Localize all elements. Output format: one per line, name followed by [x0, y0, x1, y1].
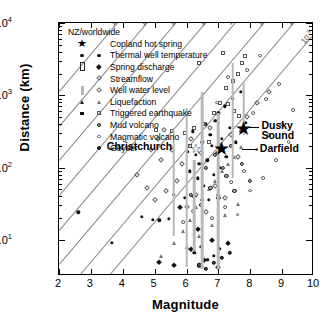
y-tick-minor [59, 99, 62, 100]
y-tick-minor [309, 61, 312, 62]
y-tick-minor [59, 184, 62, 185]
x-tick-top [123, 23, 124, 28]
legend-item: Magmatic volcano [64, 131, 244, 143]
x-tick [250, 269, 251, 274]
legend-label: Mud volcano [110, 120, 159, 130]
y-tick-minor [59, 196, 62, 197]
legend-symbol [64, 123, 110, 127]
y-tick-minor [309, 184, 312, 185]
x-tick-label: 6 [176, 277, 196, 289]
y-tick-minor [59, 74, 62, 75]
data-point [229, 180, 233, 184]
legend-item: Liquefaction [64, 96, 244, 108]
legend-symbol-worldwide [94, 88, 104, 92]
legend-label: Thermal well temperature [110, 50, 207, 60]
y-tick-minor [59, 111, 62, 112]
y-tick-major [59, 23, 65, 24]
legend-symbol-worldwide [94, 111, 104, 115]
x-tick [123, 269, 124, 274]
strain-contour-label: 10-3 [298, 29, 312, 46]
y-tick-major [306, 23, 312, 24]
y-tick-minor [309, 34, 312, 35]
star-icon: ★ [77, 38, 87, 49]
x-tick [218, 269, 219, 274]
legend-symbol [64, 76, 110, 80]
legend-symbol-worldwide [94, 146, 104, 150]
x-tick-label: 4 [112, 277, 132, 289]
legend-symbol [64, 86, 110, 95]
y-tick-minor [309, 99, 312, 100]
legend-symbol [64, 111, 110, 115]
y-tick-minor [309, 175, 312, 176]
legend-symbol-worldwide [94, 100, 104, 104]
y-tick-major [59, 168, 65, 169]
figure-distance-vs-magnitude: Distance (km) Magnitude 101102103104 234… [0, 0, 330, 321]
y-tick-minor [59, 52, 62, 53]
y-tick-minor [59, 218, 62, 219]
y-tick-minor [59, 102, 62, 103]
x-tick-label: 5 [144, 277, 164, 289]
legend-rows: ★Copland hot springThermal well temperat… [64, 38, 244, 154]
data-point [157, 259, 162, 264]
data-point [248, 189, 252, 193]
x-tick-label: 10 [303, 277, 323, 289]
data-point [159, 254, 163, 258]
data-point [212, 254, 215, 257]
legend-label: Copland hot spring [110, 39, 182, 49]
data-point [158, 157, 164, 163]
legend-label: Geyser [110, 143, 138, 153]
y-tick-minor [59, 117, 62, 118]
y-tick-minor [309, 26, 312, 27]
y-tick-minor [309, 111, 312, 112]
legend-symbol-worldwide [94, 135, 104, 139]
legend-item: Well water level [64, 84, 244, 96]
y-tick-label: 104 [0, 15, 12, 29]
marker-icon [97, 54, 100, 57]
y-tick-minor [309, 124, 312, 125]
y-tick-label: 102 [0, 160, 12, 174]
data-point [179, 161, 185, 167]
data-point [232, 189, 236, 193]
y-tick-minor [309, 74, 312, 75]
marker-icon [97, 135, 101, 139]
legend-symbol-nz [77, 112, 87, 115]
data-point [110, 241, 113, 244]
data-point [76, 211, 79, 214]
legend-label: Spring discharge [110, 62, 175, 72]
marker-icon [96, 76, 102, 82]
strain-contour-label: 10-2 [284, 23, 301, 28]
y-tick-minor [59, 146, 62, 147]
data-point [252, 111, 256, 115]
y-tick-minor [309, 179, 312, 180]
data-point [188, 218, 192, 222]
data-point [209, 237, 214, 242]
legend: NZ/worldwide ★Copland hot springThermal … [64, 27, 244, 154]
data-point [196, 177, 199, 180]
y-axis-title: Distance (km) [17, 28, 32, 188]
legend-label: Well water level [110, 85, 170, 95]
marker-icon [80, 100, 84, 104]
data-point [134, 172, 140, 178]
x-tick-top [155, 23, 156, 28]
y-tick-minor [309, 171, 312, 172]
x-tick-top [250, 23, 251, 28]
legend-symbol-worldwide [94, 65, 104, 69]
data-point [144, 185, 150, 191]
data-point [140, 215, 143, 218]
marker-icon [96, 64, 101, 69]
data-point [204, 165, 208, 169]
legend-symbol [64, 135, 110, 139]
y-tick-label: 103 [0, 87, 12, 101]
data-point [236, 213, 240, 217]
data-point [223, 205, 227, 209]
data-point [152, 197, 158, 203]
data-point [224, 174, 228, 178]
plot-area: 10-310-210-11101102103104 ★★☆ Christchur… [58, 22, 313, 275]
legend-symbol-nz: ★ [77, 38, 87, 49]
y-tick-minor [309, 189, 312, 190]
plot-clip: 10-310-210-11101102103104 ★★☆ Christchur… [59, 23, 312, 274]
data-point [210, 216, 214, 220]
x-tick-label: 7 [207, 277, 227, 289]
legend-symbol-nz [77, 86, 87, 95]
marker-icon [96, 87, 102, 93]
